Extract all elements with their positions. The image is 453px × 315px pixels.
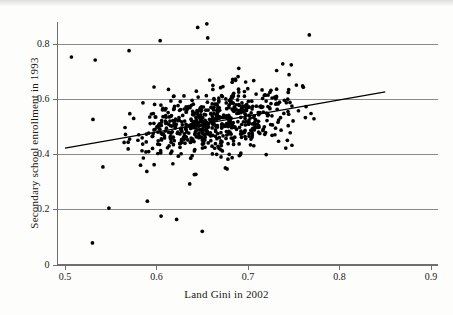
x-tick-label: 0.9: [416, 271, 446, 282]
data-point: [265, 119, 269, 123]
data-point: [238, 125, 242, 129]
data-point: [189, 127, 193, 131]
plot-canvas: [0, 0, 453, 315]
data-point: [254, 92, 258, 96]
data-point: [210, 144, 214, 148]
data-point: [197, 136, 201, 140]
data-point: [279, 128, 283, 132]
data-point: [241, 104, 245, 108]
data-point: [287, 73, 291, 77]
data-point: [258, 105, 262, 109]
data-point: [136, 138, 140, 142]
data-point: [287, 88, 291, 92]
data-point: [247, 99, 251, 103]
data-point: [140, 149, 144, 153]
data-point: [281, 62, 285, 66]
data-point: [172, 139, 176, 143]
data-point: [204, 108, 208, 112]
data-point: [237, 103, 241, 107]
data-point: [297, 109, 301, 113]
data-point: [219, 144, 223, 148]
data-point: [158, 122, 162, 126]
data-point: [214, 130, 218, 134]
data-point: [219, 155, 223, 159]
data-point: [171, 162, 175, 166]
data-point: [214, 124, 218, 128]
data-point: [245, 103, 249, 107]
data-point: [188, 182, 192, 186]
data-point: [279, 116, 283, 120]
data-point: [144, 150, 148, 154]
data-point: [140, 136, 144, 140]
data-point: [257, 130, 261, 134]
data-point: [194, 89, 198, 93]
data-point: [126, 147, 130, 151]
data-point: [124, 133, 128, 137]
data-point: [153, 103, 157, 107]
data-point: [229, 97, 233, 101]
data-point: [174, 117, 178, 121]
x-tick-label: 0.5: [50, 271, 80, 282]
data-point: [252, 144, 256, 148]
data-point: [220, 126, 224, 130]
data-point: [237, 87, 241, 91]
data-point: [212, 98, 216, 102]
data-point: [159, 149, 163, 153]
data-point: [253, 120, 257, 124]
data-point: [144, 140, 148, 144]
data-point: [172, 95, 176, 99]
data-point: [264, 99, 268, 103]
data-point: [176, 154, 180, 158]
data-point: [152, 121, 156, 125]
data-point: [212, 108, 216, 112]
data-point: [141, 142, 145, 146]
data-point: [126, 140, 130, 144]
data-point: [191, 102, 195, 106]
data-point: [250, 135, 254, 139]
data-point: [150, 112, 154, 116]
data-point: [210, 126, 214, 130]
data-point: [237, 66, 241, 70]
data-point: [286, 139, 290, 143]
data-point: [275, 69, 279, 73]
data-point: [107, 206, 111, 210]
data-point: [170, 124, 174, 128]
data-point: [309, 112, 313, 116]
data-point: [175, 218, 179, 222]
data-point: [70, 55, 74, 59]
x-tick-label: 0.8: [325, 271, 355, 282]
data-point: [270, 114, 274, 118]
data-point: [169, 131, 173, 135]
data-point: [141, 101, 145, 105]
data-point: [182, 94, 186, 98]
data-point: [168, 119, 172, 123]
data-point: [283, 98, 287, 102]
data-point: [274, 126, 278, 130]
data-point: [251, 104, 255, 108]
gridlines-group: [58, 44, 439, 210]
data-point: [163, 136, 167, 140]
data-point: [153, 115, 157, 119]
data-point: [205, 22, 209, 26]
data-point: [206, 141, 210, 145]
data-point: [204, 94, 208, 98]
data-point: [275, 95, 279, 99]
data-point: [226, 125, 230, 129]
data-point: [246, 87, 250, 91]
data-point: [215, 109, 219, 113]
data-point: [208, 78, 212, 82]
data-point: [244, 120, 248, 124]
data-point: [244, 137, 248, 141]
data-point: [191, 120, 195, 124]
data-point: [203, 145, 207, 149]
data-point: [211, 152, 215, 156]
data-point: [224, 97, 228, 101]
data-point: [263, 93, 267, 97]
data-point: [249, 143, 253, 147]
data-point: [172, 143, 176, 147]
data-point: [220, 140, 224, 144]
data-point: [169, 99, 173, 103]
data-point: [220, 94, 224, 98]
data-point: [219, 86, 223, 90]
data-point: [224, 137, 228, 141]
